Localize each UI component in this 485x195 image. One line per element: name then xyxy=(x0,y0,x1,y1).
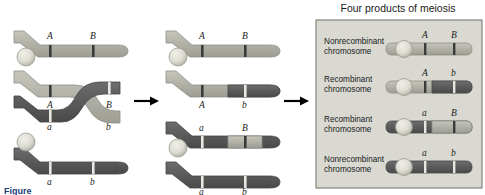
marker-A-upper xyxy=(49,45,52,57)
row-4-marker-left xyxy=(424,161,426,173)
row-2-marker-left xyxy=(424,81,426,93)
mid-label-b-mid: b xyxy=(242,100,247,110)
row-1-marker-left xyxy=(424,43,426,55)
row-1-label-line2: chromosome xyxy=(324,47,372,56)
row-4-marker-right xyxy=(453,161,455,173)
mid-label-B-top: B xyxy=(242,31,248,41)
centromere-dark-homolog xyxy=(17,133,35,151)
row-2-allele-left: A xyxy=(421,68,428,78)
mid-marker-b-lower xyxy=(244,85,247,97)
mid-label-a-lower: a xyxy=(199,123,204,133)
row-1-marker-right xyxy=(453,43,455,55)
mid-label-A-mid: A xyxy=(198,100,205,110)
middle-stage-resolved: A B A b a B a b xyxy=(166,31,280,195)
mid-marker-A-lower xyxy=(201,85,204,97)
mid-centromere-dark xyxy=(169,139,187,157)
label-b-lower: b xyxy=(106,122,111,132)
row-3-marker-right xyxy=(453,121,455,133)
label-b-bottom: b xyxy=(90,177,95,187)
row-4-label-line1: Nonrecombinant xyxy=(324,155,385,164)
row-1-allele-right: B xyxy=(451,30,457,40)
row-3-label-line1: Recombinant xyxy=(324,115,373,124)
row-3-light-segment xyxy=(432,121,472,133)
marker-B-upper xyxy=(92,45,95,57)
row-1-centromere xyxy=(396,41,413,58)
mid-label-B-lower: B xyxy=(242,123,248,133)
figure-canvas: A B A B a b a b xyxy=(0,0,485,195)
marker-a-lower xyxy=(49,162,52,174)
label-B-top: B xyxy=(90,31,96,41)
mid-centromere-light xyxy=(169,48,187,66)
arrow-stage-two-to-products xyxy=(284,97,309,106)
mid-label-a-bottom: a xyxy=(199,187,204,195)
mid-marker-a-upper xyxy=(201,136,204,148)
row-4-allele-left: a xyxy=(422,148,427,158)
row-1-label-line1: Nonrecombinant xyxy=(324,37,385,46)
mid-label-b-bottom: b xyxy=(242,187,247,195)
row-3-centromere xyxy=(396,119,413,136)
row-2-allele-right: b xyxy=(451,68,456,78)
mid-marker-B-upper xyxy=(244,45,247,57)
left-stage-chiasma: A B A B a b a b xyxy=(14,31,128,187)
row-4-label-line2: chromosome xyxy=(324,165,372,174)
row-2-marker-right xyxy=(453,81,455,93)
row-2-label-line1: Recombinant xyxy=(324,75,373,84)
row-3-allele-right: B xyxy=(451,108,457,118)
row-1-allele-left: A xyxy=(421,30,428,40)
row-4-allele-right: b xyxy=(451,148,456,158)
marker-A-lower xyxy=(49,85,52,97)
mid-marker-B-upper2 xyxy=(244,136,247,148)
marker-a-upper xyxy=(49,110,52,122)
mid-label-A-top: A xyxy=(198,31,205,41)
mid-exchanged-dark-segment xyxy=(228,85,280,97)
centromere-light-homolog xyxy=(17,48,35,66)
label-a-lower: a xyxy=(47,122,52,132)
row-3-marker-left xyxy=(424,121,426,133)
row-2-dark-segment xyxy=(432,81,472,93)
figure-caption: Figure xyxy=(4,186,32,195)
mid-marker-A-upper xyxy=(201,45,204,57)
row-3-allele-left: a xyxy=(422,108,427,118)
row-4-centromere xyxy=(396,159,413,176)
dark-chromatid-lower xyxy=(14,148,128,174)
four-products-panel: Four products of meiosis Nonrecombinant … xyxy=(316,2,482,188)
mid-light-chromatid-lower xyxy=(166,71,280,97)
label-B-mid: B xyxy=(106,100,112,110)
row-3-label-line2: chromosome xyxy=(324,125,372,134)
marker-b-lower xyxy=(92,162,95,174)
arrow-stage-one-to-two xyxy=(134,97,159,106)
row-2-label-line2: chromosome xyxy=(324,85,372,94)
row-2-centromere xyxy=(396,79,413,96)
products-panel-title: Four products of meiosis xyxy=(341,2,456,14)
label-a-bottom: a xyxy=(47,177,52,187)
mid-dark-chromatid-lower xyxy=(166,162,280,188)
label-A-mid: A xyxy=(46,100,53,110)
marker-b-upper xyxy=(108,82,111,94)
label-A-top: A xyxy=(46,31,53,41)
